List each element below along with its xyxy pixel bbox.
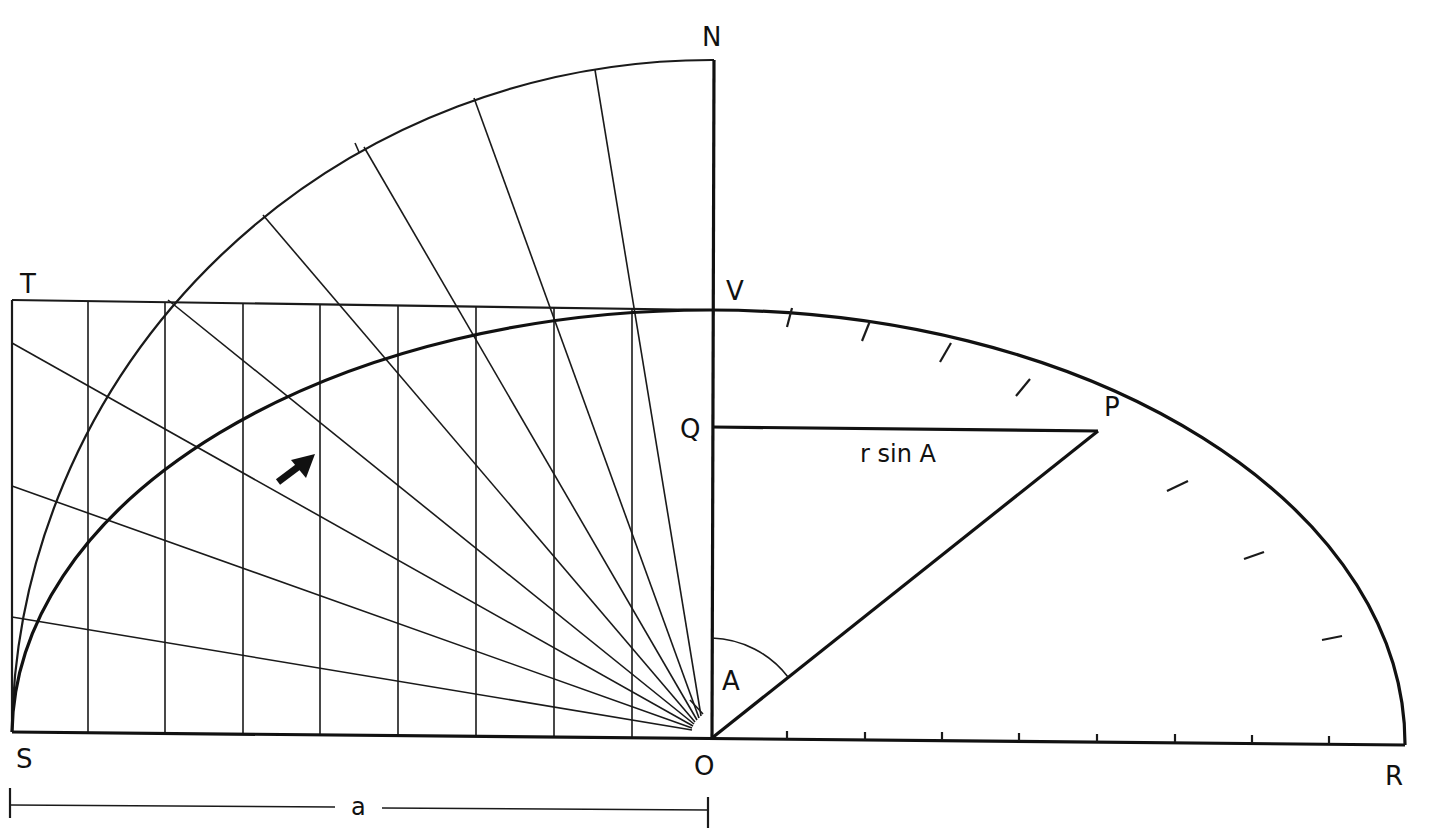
projection-construction-diagram: N T V Q P r sin A A S O R a — [0, 0, 1442, 832]
label-r-sin-A: r sin A — [860, 440, 937, 468]
label-P: P — [1104, 392, 1120, 422]
label-Q: Q — [680, 414, 700, 444]
label-V: V — [726, 276, 744, 306]
label-angle-A: A — [722, 666, 740, 696]
radial-lines — [12, 70, 703, 730]
label-R: R — [1385, 761, 1403, 791]
outer-circle-arc — [12, 60, 714, 732]
rectangle-top-edge-TV — [12, 300, 712, 310]
ellipse-ticks — [787, 308, 1342, 640]
label-N: N — [702, 22, 721, 52]
axis-ON — [712, 60, 714, 738]
arrow-icon — [278, 454, 315, 482]
outer-arc-tick — [355, 143, 359, 152]
ellipse-left-arc — [12, 310, 712, 732]
segment-OP — [712, 431, 1098, 738]
ellipse-right-arc — [712, 310, 1405, 745]
label-O: O — [694, 751, 714, 781]
label-a: a — [351, 793, 366, 821]
baseline-SOR — [12, 732, 1405, 745]
segment-QP — [712, 427, 1098, 431]
label-T: T — [19, 269, 36, 299]
label-S: S — [16, 744, 33, 774]
